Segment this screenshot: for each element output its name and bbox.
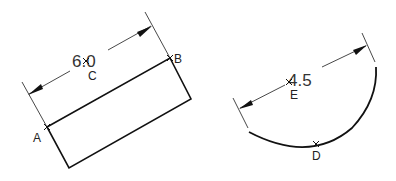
extension-line-arc-left [233, 98, 248, 128]
point-b-marker-icon[interactable] [167, 55, 173, 61]
arrowhead-arc-right-icon [353, 45, 367, 55]
point-label-c: C [88, 69, 97, 83]
point-label-d: D [312, 149, 321, 163]
rectangle-figure: 6.0 A B C [22, 12, 191, 168]
drawing-canvas: 6.0 A B C 4.5 [0, 0, 396, 181]
point-a-marker-icon[interactable] [44, 124, 50, 130]
arrowhead-left-icon [28, 84, 43, 95]
arc-shape[interactable] [249, 67, 376, 147]
point-label-b: B [174, 52, 182, 66]
arc-figure: 4.5 E D [233, 33, 376, 163]
arrowhead-arc-left-icon [239, 100, 253, 109]
point-label-e: E [290, 88, 298, 102]
extension-line-a [22, 82, 47, 127]
extension-line-b [145, 12, 170, 58]
rectangle-shape[interactable] [47, 58, 191, 168]
point-label-a: A [33, 131, 41, 145]
arrowhead-right-icon [137, 26, 152, 37]
